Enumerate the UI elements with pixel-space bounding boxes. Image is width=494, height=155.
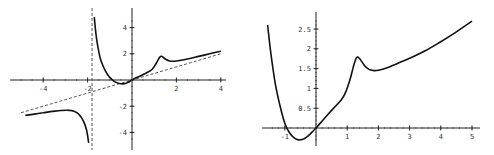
y-tick-label: 0.5 bbox=[298, 105, 311, 113]
plot-right: -1123450.511.522.5 bbox=[262, 12, 480, 146]
y-tick-label: -2 bbox=[119, 103, 127, 111]
plot-left: -4-22442-2-4 bbox=[10, 8, 226, 150]
x-tick-label: 4 bbox=[219, 85, 223, 93]
y-tick-label: 4 bbox=[123, 24, 127, 32]
x-tick-label: 1 bbox=[345, 133, 349, 141]
y-tick-label: 2.5 bbox=[298, 26, 311, 34]
x-tick-label: 2 bbox=[174, 85, 178, 93]
figure: -4-22442-2-4 -1123450.511.522.5 bbox=[0, 0, 494, 155]
x-tick-label: 2 bbox=[376, 133, 380, 141]
x-tick-label: -4 bbox=[39, 85, 47, 93]
x-tick-label: 4 bbox=[439, 133, 443, 141]
x-tick-label: -1 bbox=[281, 133, 289, 141]
y-tick-label: 1.5 bbox=[298, 65, 311, 73]
series-line-left-branch bbox=[25, 110, 88, 143]
y-tick-label: 2 bbox=[307, 45, 311, 53]
series-line-curve bbox=[268, 21, 472, 140]
y-tick-label: -4 bbox=[119, 129, 127, 137]
y-tick-label: 1 bbox=[307, 85, 311, 93]
x-tick-label: 3 bbox=[407, 133, 411, 141]
y-tick-label: 2 bbox=[123, 50, 127, 58]
x-tick-label: 5 bbox=[470, 133, 474, 141]
series-line-right-branch bbox=[94, 17, 221, 84]
